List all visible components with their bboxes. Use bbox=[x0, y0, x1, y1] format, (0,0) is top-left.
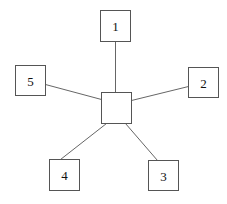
node-2-label: 2 bbox=[200, 76, 207, 91]
star-diagram: 12345 bbox=[0, 0, 227, 204]
node-2: 2 bbox=[189, 68, 219, 98]
hub-node-box bbox=[102, 93, 132, 124]
edge-n4-hub bbox=[61, 124, 107, 160]
hub-node bbox=[102, 93, 132, 124]
edge-n2-hub bbox=[132, 87, 189, 101]
node-1: 1 bbox=[101, 11, 131, 42]
node-3-label: 3 bbox=[160, 169, 167, 184]
edge-n5-hub bbox=[46, 85, 102, 100]
node-1-label: 1 bbox=[112, 19, 119, 34]
edge-n3-hub bbox=[126, 124, 158, 161]
node-5: 5 bbox=[16, 66, 46, 96]
node-5-label: 5 bbox=[27, 74, 34, 89]
nodes-layer: 12345 bbox=[16, 11, 219, 191]
node-4-label: 4 bbox=[61, 168, 68, 183]
node-3: 3 bbox=[149, 161, 179, 191]
node-4: 4 bbox=[50, 160, 80, 191]
